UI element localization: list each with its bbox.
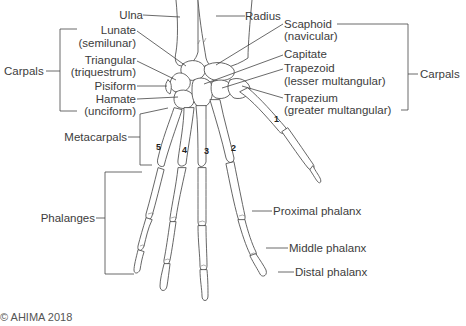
label-lunate: Lunate bbox=[70, 24, 136, 37]
metacarpal-1 bbox=[240, 88, 286, 134]
capitate-bone bbox=[192, 78, 213, 108]
phalanx-2-middle bbox=[238, 220, 256, 258]
label-metacarpals: Metacarpals bbox=[50, 131, 127, 144]
phalanx-2-proximal bbox=[226, 162, 245, 222]
label-distal-phalanx: Distal phalanx bbox=[295, 266, 367, 279]
copyright-notice: © AHIMA 2018 bbox=[0, 311, 72, 323]
label-scaphoid: Scaphoid bbox=[284, 18, 332, 31]
label-hamate: Hamate bbox=[70, 93, 136, 106]
phalanx-4-distal bbox=[160, 264, 170, 291]
scaphoid-bone bbox=[204, 63, 234, 81]
label-phalanges: Phalanges bbox=[30, 212, 95, 225]
phalanx-1-proximal bbox=[282, 128, 314, 170]
label-proximal-phalanx: Proximal phalanx bbox=[273, 205, 361, 218]
label-hamate-alt: (unciform) bbox=[70, 105, 136, 118]
phalanx-2-distal bbox=[250, 254, 266, 276]
phalanx-3-middle bbox=[198, 226, 207, 271]
triquetrum-bone bbox=[170, 73, 190, 92]
metacarpal-number-3: 3 bbox=[204, 146, 209, 156]
phalanx-3-distal bbox=[200, 270, 208, 301]
label-carpals-left: Carpals bbox=[4, 65, 44, 78]
metacarpal-number-2: 2 bbox=[231, 143, 236, 153]
label-ulna: Ulna bbox=[95, 9, 143, 22]
label-triangular-alt: (triquestrum) bbox=[60, 66, 136, 79]
label-scaphoid-alt: (navicular) bbox=[284, 30, 338, 43]
phalanx-1-distal bbox=[310, 166, 321, 183]
radius-bone bbox=[198, 0, 252, 69]
ulna-bone bbox=[175, 0, 198, 66]
label-trapezium-alt: (greater multangular) bbox=[284, 104, 391, 117]
label-lunate-alt: (semilunar) bbox=[70, 37, 136, 50]
metacarpal-number-1: 1 bbox=[274, 114, 279, 124]
label-trapezoid: Trapezoid bbox=[284, 62, 335, 75]
phalanx-5-distal bbox=[134, 250, 144, 273]
metacarpal-number-4: 4 bbox=[182, 145, 187, 155]
label-trapezium: Trapezium bbox=[284, 92, 338, 105]
phalanx-4-proximal bbox=[170, 168, 186, 223]
label-capitate: Capitate bbox=[284, 48, 327, 61]
label-carpals-right: Carpals bbox=[420, 68, 460, 81]
phalanx-3-proximal bbox=[198, 168, 206, 227]
phalanx-4-middle bbox=[164, 222, 176, 265]
pisiform-bone bbox=[166, 80, 172, 94]
label-pisiform: Pisiform bbox=[70, 80, 136, 93]
label-middle-phalanx: Middle phalanx bbox=[289, 242, 366, 255]
metacarpal-2 bbox=[210, 100, 234, 163]
metacarpal-3 bbox=[196, 106, 206, 167]
label-triangular: Triangular bbox=[60, 54, 136, 67]
phalanx-5-proximal bbox=[146, 168, 164, 220]
hamate-bone bbox=[174, 90, 194, 109]
label-trapezoid-alt: (lesser multangular) bbox=[284, 75, 386, 88]
metacarpal-number-5: 5 bbox=[156, 142, 161, 152]
label-radius: Radius bbox=[245, 10, 281, 23]
metacarpal-4 bbox=[178, 108, 194, 166]
